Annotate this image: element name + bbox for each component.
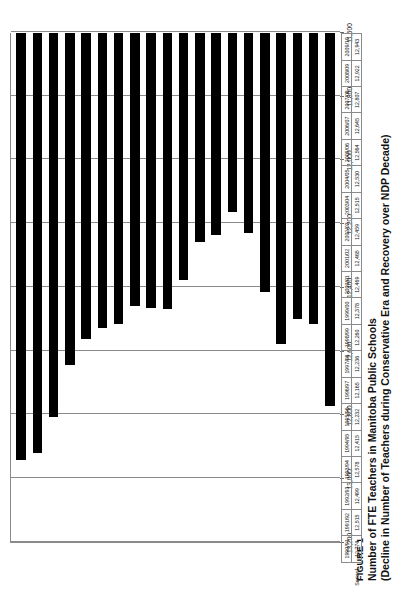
table-cell-value: 12,774 — [352, 536, 362, 562]
table-cell-category: 1990/91 — [342, 536, 352, 562]
bar-2004-05 — [98, 33, 107, 328]
table-cell-value: 12,232 — [352, 404, 362, 430]
bar-row — [208, 33, 224, 542]
table-cell-category: 2006/07 — [342, 113, 352, 139]
table-cell-value: 12,378 — [352, 298, 362, 324]
table-cell-value: 12,465 — [352, 245, 362, 271]
gridline-11600 — [11, 31, 340, 32]
table-cell-category: 2001/02 — [342, 245, 352, 271]
bar-1999-00 — [179, 33, 188, 280]
table-cell-value: 12,236 — [352, 351, 362, 377]
table-cell-category: 1991/92 — [342, 509, 352, 535]
bar-2007-08 — [49, 33, 58, 417]
bar-1995-96 — [244, 33, 253, 233]
table-corner-cell — [342, 562, 352, 589]
bar-1998-99 — [195, 33, 204, 242]
bar-row — [289, 33, 305, 542]
table-cell-value: 12,578 — [352, 456, 362, 482]
bar-row — [46, 33, 62, 542]
table-cell-value: 12,807 — [352, 87, 362, 113]
bar-1997-98 — [211, 33, 220, 235]
bar-row — [62, 33, 78, 542]
bar-row — [306, 33, 322, 542]
bar-2006-07 — [65, 33, 74, 365]
table-cell-value: 12,515 — [352, 509, 362, 535]
table-cell-value: 12,260 — [352, 324, 362, 350]
table-cell-value: 12,645 — [352, 113, 362, 139]
bar-2005-06 — [81, 33, 90, 339]
chart-bars — [11, 33, 340, 542]
bar-2000-01 — [163, 33, 172, 309]
bar-2001-02 — [146, 33, 155, 308]
table-cell-value: 12,459 — [352, 219, 362, 245]
bar-row — [159, 33, 175, 542]
bar-row — [29, 33, 45, 542]
legend-series-label: Series1 — [352, 562, 362, 589]
bar-1996-97 — [228, 33, 237, 212]
table-cell-value: 12,564 — [352, 139, 362, 165]
bar-2009-10 — [16, 33, 25, 460]
table-row-values: Series112,77412,51512,49912,57812,41512,… — [352, 34, 362, 589]
chart-plot-area — [10, 33, 340, 543]
bar-row — [13, 33, 29, 542]
table-cell-value: 12,515 — [352, 192, 362, 218]
table-cell-value: 12,922 — [352, 60, 362, 86]
bar-row — [94, 33, 110, 542]
bar-row — [143, 33, 159, 542]
bar-row — [322, 33, 338, 542]
table-cell-value: 12,415 — [352, 430, 362, 456]
bar-1993-94 — [276, 33, 285, 344]
table-cell-category: 2004/05 — [342, 166, 352, 192]
bar-1990-91 — [325, 33, 334, 406]
table-cell-category: 1995/96 — [342, 404, 352, 430]
page-subtitle: (Decline in Number of Teachers during Co… — [379, 11, 392, 581]
table-cell-value: 12,943 — [352, 34, 362, 61]
bar-2003-04 — [114, 33, 123, 324]
bar-2008-09 — [33, 33, 42, 453]
table-cell-category: 2008/09 — [342, 60, 352, 86]
table-cell-value: 12,499 — [352, 483, 362, 509]
page-title: Number of FTE Teachers in Manitoba Publi… — [366, 11, 379, 581]
figure-canvas: FIGURE 1 Number of FTE Teachers in Manit… — [0, 0, 401, 589]
bar-1991-92 — [309, 33, 318, 324]
table-cell-category: 2003/04 — [342, 192, 352, 218]
bar-row — [241, 33, 257, 542]
table-cell-category: 1996/97 — [342, 377, 352, 403]
bar-row — [78, 33, 94, 542]
table-cell-value: 12,469 — [352, 272, 362, 298]
table-cell-value: 12,530 — [352, 166, 362, 192]
bar-row — [257, 33, 273, 542]
table-cell-category: 2009/10 — [342, 34, 352, 61]
table-cell-category: 2005/06 — [342, 139, 352, 165]
table-cell-category: 1992/93 — [342, 483, 352, 509]
chart-data-table: 1990/911991/921992/931993/941994/951995/… — [341, 33, 362, 589]
bar-row — [273, 33, 289, 542]
table-cell-category: 1994/95 — [342, 430, 352, 456]
bar-1992-93 — [293, 33, 302, 319]
bar-1994-95 — [260, 33, 269, 292]
bar-row — [224, 33, 240, 542]
table-cell-category: 1998/99 — [342, 324, 352, 350]
bar-row — [176, 33, 192, 542]
table-cell-category: 1993/94 — [342, 456, 352, 482]
bar-row — [111, 33, 127, 542]
table-cell-category: 2007/08 — [342, 87, 352, 113]
table-cell-category: 1997/98 — [342, 351, 352, 377]
bar-row — [127, 33, 143, 542]
table-cell-category: 2000/01 — [342, 272, 352, 298]
table-row-categories: 1990/911991/921992/931993/941994/951995/… — [342, 34, 352, 589]
table-cell-value: 12,165 — [352, 377, 362, 403]
table-cell-category: 1999/00 — [342, 298, 352, 324]
table-cell-category: 2002/03 — [342, 219, 352, 245]
bar-2002-03 — [130, 33, 139, 306]
bar-row — [192, 33, 208, 542]
